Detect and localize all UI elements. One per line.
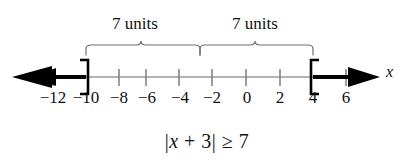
caption-relation-operator: ≥ <box>222 130 233 152</box>
caption-right-side: 7 <box>239 130 250 152</box>
caption-constant: 3 <box>201 130 212 152</box>
brace-right <box>200 41 313 55</box>
brace-label-left: 7 units <box>76 14 194 34</box>
tick-label-6: 6 <box>326 88 366 108</box>
caption-plus-operator: + <box>184 130 196 152</box>
number-line-diagram: 7 units 7 units −12 −10 −8 −6 −4 −2 0 2 … <box>0 0 414 126</box>
caption-variable: x <box>169 130 178 152</box>
brace-left <box>86 41 200 55</box>
absolute-value-bar-close: | <box>212 130 217 152</box>
shaded-ray-left <box>12 66 86 88</box>
brace-label-right: 7 units <box>196 14 314 34</box>
axis-variable-label: x <box>386 63 393 81</box>
inequality-caption: |x + 3| ≥ 7 <box>0 130 414 153</box>
tick-label--2: −2 <box>192 88 232 108</box>
number-line-figure-page: 7 units 7 units −12 −10 −8 −6 −4 −2 0 2 … <box>0 0 414 167</box>
